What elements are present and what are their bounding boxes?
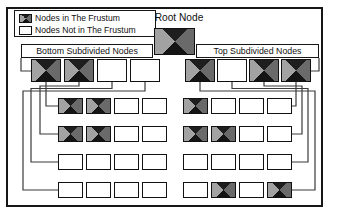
top-parent-node-3: [249, 59, 279, 82]
right-row4-node-4: [267, 182, 292, 198]
left-row4-node-4: [142, 182, 167, 198]
legend-item-not-in-frustum: Nodes Not in The Frustum: [19, 25, 136, 36]
left-row1-node-2: [86, 98, 111, 114]
left-row1-node-1: [58, 98, 83, 114]
left-row4-node-2: [86, 182, 111, 198]
bottom-parent-node-1: [31, 59, 61, 82]
legend-item-in-frustum: Nodes in The Frustum: [19, 13, 120, 24]
left-row3-node-2: [86, 154, 111, 170]
left-row4-node-1: [58, 182, 83, 198]
top-subdivided-group-title: Top Subdivided Nodes: [196, 44, 319, 58]
legend: Nodes in The Frustum Nodes Not in The Fr…: [14, 10, 156, 37]
right-row4-node-2: [211, 182, 236, 198]
top-parent-node-4: [281, 59, 311, 82]
left-row3-node-3: [114, 154, 139, 170]
right-row1-node-2: [211, 98, 236, 114]
right-row1-node-3: [239, 98, 264, 114]
right-row3-node-4: [267, 154, 292, 170]
right-row1-node-1: [183, 98, 208, 114]
bottom-parent-node-4: [130, 59, 160, 82]
top-parent-node-2: [217, 59, 247, 82]
left-row2-node-2: [86, 126, 111, 142]
in-frustum-swatch-icon: [19, 14, 32, 23]
legend-label: Nodes Not in The Frustum: [35, 26, 136, 35]
right-row2-node-1: [183, 126, 208, 142]
bottom-parent-node-2: [64, 59, 94, 82]
left-row3-node-1: [58, 154, 83, 170]
left-row4-node-3: [114, 182, 139, 198]
group-title-text: Top Subdivided Nodes: [213, 46, 301, 56]
top-parent-node-1: [185, 59, 215, 82]
not-in-frustum-swatch-icon: [19, 26, 32, 35]
root-node-label: Root Node: [148, 12, 210, 24]
right-row2-node-4: [267, 126, 292, 142]
left-row2-node-1: [58, 126, 83, 142]
frustum-quadtree-figure: Nodes in The Frustum Nodes Not in The Fr…: [0, 0, 342, 216]
left-row3-node-4: [142, 154, 167, 170]
root-node: [154, 28, 195, 55]
right-row3-node-1: [183, 154, 208, 170]
left-row1-node-3: [114, 98, 139, 114]
left-row2-node-3: [114, 126, 139, 142]
right-row2-node-3: [239, 126, 264, 142]
right-row1-node-4: [267, 98, 292, 114]
right-row2-node-2: [211, 126, 236, 142]
bottom-parent-node-3: [97, 59, 127, 82]
right-row4-node-3: [239, 182, 264, 198]
right-row3-node-3: [239, 154, 264, 170]
bottom-subdivided-group-title: Bottom Subdivided Nodes: [21, 44, 153, 58]
right-row4-node-1: [183, 182, 208, 198]
left-row1-node-4: [142, 98, 167, 114]
right-row3-node-2: [211, 154, 236, 170]
legend-label: Nodes in The Frustum: [35, 14, 120, 23]
left-row2-node-4: [142, 126, 167, 142]
group-title-text: Bottom Subdivided Nodes: [36, 46, 138, 56]
